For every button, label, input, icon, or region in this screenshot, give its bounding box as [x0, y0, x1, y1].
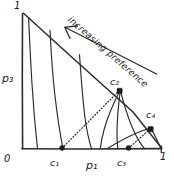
y-axis-label: p₃ [2, 73, 13, 84]
point-marker-c2 [117, 88, 122, 93]
point-label-c2: c₂ [110, 77, 119, 87]
point-label-c4: c₄ [146, 110, 155, 120]
figure-container: 0 1 1 p₃ p₁ c₁ c₂ c₃ c₄ increasing prefe… [0, 0, 174, 180]
point-marker-c1 [60, 146, 65, 151]
origin-label: 0 [4, 154, 10, 164]
point-marker-c4 [148, 127, 153, 132]
indifference-curve-1 [29, 18, 38, 149]
dotted-connector-c1-c2 [62, 91, 119, 149]
point-label-c3: c₃ [117, 158, 126, 168]
point-label-c1: c₁ [50, 158, 59, 168]
x-max-label: 1 [160, 152, 166, 162]
y-max-label: 1 [14, 1, 20, 11]
point-marker-c3 [126, 146, 131, 151]
indifference-curve-6 [121, 91, 145, 149]
x-axis-label: p₁ [86, 160, 97, 171]
